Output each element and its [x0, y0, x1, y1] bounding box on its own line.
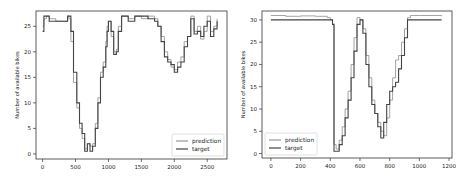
x-tick-label: 1000	[101, 164, 115, 170]
target-legend-label: target	[285, 145, 303, 152]
y-tick-label: 30	[250, 17, 257, 23]
x-tick-label: 400	[325, 163, 336, 169]
x-tick-label: 0	[269, 163, 273, 169]
left-line-chart: 050010001500200025000510152025Number of …	[14, 11, 227, 170]
y-tick-label: 5	[254, 128, 258, 134]
y-tick-label: 5	[28, 125, 32, 131]
y-tick-label: 0	[254, 151, 258, 157]
x-tick-label: 1000	[412, 163, 426, 169]
y-tick-label: 20	[250, 61, 257, 67]
y-tick-label: 15	[250, 84, 257, 90]
y-tick-label: 0	[28, 151, 32, 157]
legend: predictiontarget	[265, 133, 317, 155]
x-tick-label: 600	[355, 163, 366, 169]
y-tick-label: 20	[24, 49, 31, 55]
x-tick-label: 1200	[442, 163, 456, 169]
x-tick-label: 200	[295, 163, 306, 169]
x-tick-label: 0	[41, 164, 45, 170]
x-tick-label: 1500	[134, 164, 148, 170]
prediction-legend-label: prediction	[285, 137, 314, 144]
y-tick-label: 10	[250, 106, 257, 112]
charts-figure: 050010001500200025000510152025Number of …	[0, 0, 470, 178]
x-tick-label: 2500	[200, 164, 214, 170]
x-tick-label: 500	[70, 164, 81, 170]
y-tick-label: 15	[24, 74, 31, 80]
y-axis-label: Number of available bikes	[240, 50, 246, 118]
y-tick-label: 10	[24, 100, 31, 106]
x-tick-label: 2000	[167, 164, 181, 170]
prediction-series-line	[271, 16, 442, 150]
prediction-legend-label: prediction	[192, 138, 221, 145]
target-series-line	[271, 20, 442, 151]
y-axis-label: Number of available bikes	[14, 51, 20, 119]
right-line-chart: 020040060080010001200051015202530Number …	[240, 11, 457, 169]
y-tick-label: 25	[24, 23, 31, 29]
legend: predictiontarget	[172, 134, 224, 156]
y-tick-label: 25	[250, 39, 257, 45]
x-tick-label: 800	[384, 163, 395, 169]
target-series-line	[43, 16, 218, 151]
target-legend-label: target	[192, 146, 210, 153]
